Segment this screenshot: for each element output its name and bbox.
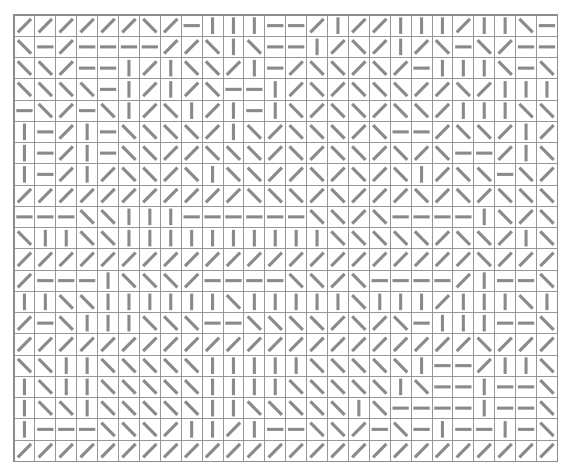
line-segment bbox=[310, 380, 323, 394]
line-segment bbox=[164, 125, 177, 139]
line-segment bbox=[498, 61, 511, 75]
line-segment bbox=[540, 231, 553, 245]
line-segment bbox=[540, 338, 553, 352]
line-segment bbox=[289, 274, 302, 288]
line-segment bbox=[373, 189, 386, 203]
line-segment bbox=[289, 401, 302, 415]
line-segment bbox=[498, 253, 511, 267]
line-segment bbox=[373, 401, 386, 415]
line-segment bbox=[39, 61, 52, 75]
line-segment bbox=[478, 40, 491, 54]
line-segment bbox=[540, 274, 553, 288]
line-segment bbox=[394, 61, 407, 75]
line-segment bbox=[164, 401, 177, 415]
line-segment bbox=[457, 83, 470, 97]
line-segment bbox=[394, 423, 407, 437]
line-segment bbox=[206, 338, 219, 352]
line-segment bbox=[122, 168, 135, 182]
line-segment bbox=[519, 210, 532, 224]
line-segment bbox=[80, 253, 93, 267]
line-segment bbox=[540, 189, 553, 203]
line-segment bbox=[206, 189, 219, 203]
line-segment bbox=[415, 231, 428, 245]
line-segment bbox=[352, 210, 365, 224]
line-segment bbox=[164, 146, 177, 160]
line-segment bbox=[352, 40, 365, 54]
line-segment bbox=[80, 444, 93, 458]
line-segment bbox=[143, 423, 156, 437]
line-segment bbox=[331, 146, 344, 160]
line-segment bbox=[80, 231, 93, 245]
line-segment bbox=[18, 189, 31, 203]
line-segment bbox=[331, 189, 344, 203]
line-segment bbox=[80, 210, 93, 224]
line-segment bbox=[18, 231, 31, 245]
line-segment bbox=[289, 83, 302, 97]
line-segment bbox=[394, 104, 407, 118]
grid-canvas bbox=[0, 0, 570, 474]
line-segment bbox=[248, 444, 261, 458]
line-segment bbox=[248, 338, 261, 352]
line-segment bbox=[310, 125, 323, 139]
line-segment bbox=[227, 444, 240, 458]
line-segment bbox=[101, 19, 114, 33]
line-segment bbox=[164, 189, 177, 203]
line-segment bbox=[101, 401, 114, 415]
line-segment bbox=[352, 146, 365, 160]
line-segment bbox=[352, 359, 365, 373]
line-segment bbox=[540, 401, 553, 415]
line-segment bbox=[540, 316, 553, 330]
line-segment bbox=[101, 231, 114, 245]
line-segment bbox=[122, 423, 135, 437]
line-segment bbox=[540, 380, 553, 394]
line-segment bbox=[185, 146, 198, 160]
line-segment bbox=[478, 168, 491, 182]
line-segment bbox=[352, 19, 365, 33]
line-segment bbox=[143, 189, 156, 203]
line-segment bbox=[519, 189, 532, 203]
line-segment bbox=[394, 168, 407, 182]
line-segment bbox=[310, 338, 323, 352]
line-segment bbox=[519, 104, 532, 118]
line-segment bbox=[394, 253, 407, 267]
line-segment bbox=[227, 189, 240, 203]
line-segment bbox=[143, 61, 156, 75]
line-segment bbox=[101, 189, 114, 203]
line-segment bbox=[122, 274, 135, 288]
line-segment bbox=[143, 316, 156, 330]
line-segment bbox=[394, 338, 407, 352]
line-segment bbox=[310, 19, 323, 33]
line-segment bbox=[310, 168, 323, 182]
line-segment bbox=[143, 274, 156, 288]
line-segment bbox=[185, 83, 198, 97]
line-segment bbox=[289, 444, 302, 458]
line-segment bbox=[289, 104, 302, 118]
line-segment bbox=[415, 104, 428, 118]
line-segment bbox=[18, 40, 31, 54]
line-segment bbox=[331, 253, 344, 267]
line-segment bbox=[478, 125, 491, 139]
line-segment bbox=[352, 444, 365, 458]
line-segment bbox=[373, 231, 386, 245]
line-segment bbox=[60, 295, 73, 309]
line-segment bbox=[289, 61, 302, 75]
line-segment bbox=[60, 61, 73, 75]
line-segment bbox=[519, 338, 532, 352]
line-segment bbox=[331, 231, 344, 245]
line-segment bbox=[60, 40, 73, 54]
line-segment bbox=[373, 380, 386, 394]
line-segment bbox=[394, 231, 407, 245]
line-segment bbox=[185, 444, 198, 458]
line-segment bbox=[331, 316, 344, 330]
line-segment bbox=[415, 146, 428, 160]
line-segment bbox=[248, 146, 261, 160]
line-segment bbox=[60, 338, 73, 352]
line-segment bbox=[415, 40, 428, 54]
line-segment bbox=[498, 231, 511, 245]
line-segment bbox=[457, 189, 470, 203]
line-segment bbox=[185, 125, 198, 139]
line-segment bbox=[498, 338, 511, 352]
line-segment bbox=[39, 104, 52, 118]
line-segment bbox=[143, 104, 156, 118]
line-segment bbox=[373, 61, 386, 75]
